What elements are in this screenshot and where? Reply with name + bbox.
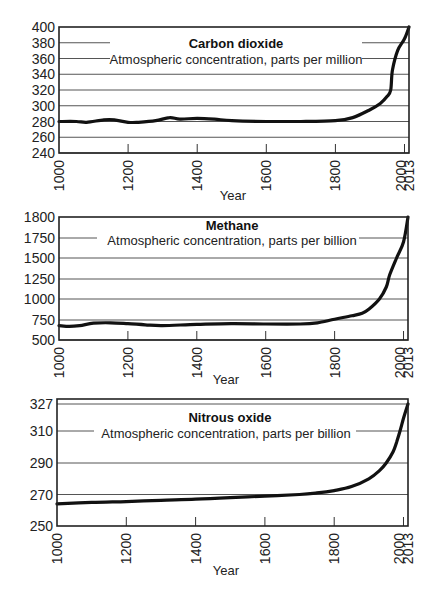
x-tick-label: 1400 <box>189 160 205 191</box>
y-tick-label: 310 <box>30 423 54 439</box>
x-tick-label: 1200 <box>120 347 136 378</box>
x-tick-label: 2013 <box>400 347 416 378</box>
y-tick-label: 300 <box>32 98 56 114</box>
y-tick-label: 290 <box>30 455 54 471</box>
co2-chart: 240260280300320340360380400 100012001400… <box>32 19 417 203</box>
x-tick-label: 1000 <box>51 347 67 378</box>
methane-y-axis-labels: 50075010001250150017501800 <box>24 209 55 348</box>
y-tick-label: 400 <box>32 19 56 35</box>
y-tick-label: 1750 <box>24 230 55 246</box>
x-tick-label: 1600 <box>257 533 273 564</box>
nitrous-oxide-title: Nitrous oxide <box>188 410 271 425</box>
x-tick-label: 1400 <box>188 533 204 564</box>
x-tick-label: 1200 <box>118 533 134 564</box>
x-tick-label: 1000 <box>49 533 65 564</box>
x-tick-label: 1400 <box>189 347 205 378</box>
y-tick-label: 750 <box>32 312 56 328</box>
x-tick-label: 1800 <box>326 533 342 564</box>
methane-x-axis-ticks <box>128 331 404 340</box>
nitrous-oxide-x-axis-ticks <box>126 517 403 526</box>
methane-chart: 50075010001250150017501800 1000120014001… <box>24 209 416 387</box>
y-tick-label: 500 <box>32 332 56 348</box>
y-tick-label: 320 <box>32 82 56 98</box>
x-tick-label: 1800 <box>327 160 343 191</box>
y-tick-label: 280 <box>32 114 56 130</box>
nitrous-oxide-chart: 250270290310327 100012001400160018002000… <box>30 396 416 578</box>
x-tick-label: 1600 <box>258 347 274 378</box>
y-tick-label: 1500 <box>24 250 55 266</box>
co2-y-axis-labels: 240260280300320340360380400 <box>32 19 56 161</box>
nitrous-oxide-x-axis-labels: 1000120014001600180020002013 <box>49 533 416 564</box>
x-tick-label: 1000 <box>51 160 67 191</box>
y-tick-label: 1800 <box>24 209 55 225</box>
nitrous-oxide-x-axis-title: Year <box>213 563 240 578</box>
methane-title: Methane <box>206 218 259 233</box>
co2-title: Carbon dioxide <box>189 36 284 51</box>
x-tick-label: 2013 <box>400 533 416 564</box>
y-tick-label: 1250 <box>24 271 55 287</box>
y-tick-label: 327 <box>30 396 54 412</box>
y-tick-label: 250 <box>30 518 54 534</box>
co2-subtitle: Atmospheric concentration, parts per mil… <box>110 52 363 67</box>
y-tick-label: 240 <box>32 145 56 161</box>
y-tick-label: 260 <box>32 129 56 145</box>
x-tick-label: 2013 <box>401 160 417 191</box>
x-tick-label: 1200 <box>120 160 136 191</box>
methane-subtitle: Atmospheric concentration, parts per bil… <box>107 233 356 248</box>
x-tick-label: 1800 <box>327 347 343 378</box>
nitrous-oxide-y-axis-labels: 250270290310327 <box>30 396 54 534</box>
co2-x-axis-ticks <box>128 144 404 153</box>
y-tick-label: 340 <box>32 66 56 82</box>
y-tick-label: 380 <box>32 35 56 51</box>
co2-x-axis-title: Year <box>220 188 247 203</box>
y-tick-label: 270 <box>30 487 54 503</box>
x-tick-label: 1600 <box>258 160 274 191</box>
methane-x-axis-title: Year <box>213 372 240 387</box>
nitrous-oxide-subtitle: Atmospheric concentration, parts per bil… <box>101 426 350 441</box>
greenhouse-gas-charts: 240260280300320340360380400 100012001400… <box>0 0 433 591</box>
co2-x-axis-labels: 1000120014001600180020002013 <box>51 160 417 191</box>
y-tick-label: 360 <box>32 51 56 67</box>
y-tick-label: 1000 <box>24 291 55 307</box>
